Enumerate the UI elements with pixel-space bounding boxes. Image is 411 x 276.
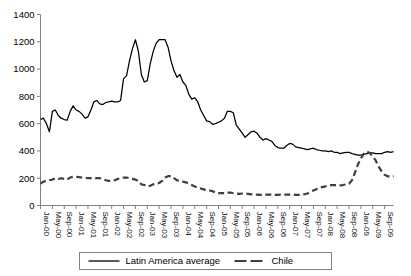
series-line-chile — [41, 152, 394, 195]
y-axis-tick-label: 200 — [19, 173, 35, 184]
x-axis-tick-label: Sep-00 — [65, 212, 74, 238]
x-axis-tick-label: Jan-08 — [326, 212, 335, 237]
x-axis-tick-label: May-09 — [374, 212, 383, 239]
chart-figure: 0200400600800100012001400Jan-00May-00Sep… — [0, 0, 411, 276]
x-axis-tick-label: May-07 — [303, 212, 312, 239]
y-axis-tick-label: 0 — [29, 200, 34, 211]
x-axis-tick-label: Jan-04 — [184, 212, 193, 237]
y-axis-tick-label: 800 — [19, 91, 35, 102]
legend-label-chile: Chile — [272, 255, 294, 266]
y-axis-tick-label: 600 — [19, 118, 35, 129]
x-axis-tick-label: May-05 — [232, 212, 241, 239]
x-axis-tick-label: Sep-02 — [137, 212, 146, 238]
x-axis-tick-label: Jan-02 — [113, 212, 122, 237]
x-axis-tick-label: May-08 — [338, 212, 347, 239]
x-axis-tick-label: Jan-01 — [77, 212, 86, 237]
x-axis-tick-label: May-00 — [54, 212, 63, 239]
x-axis-tick-label: Sep-01 — [101, 212, 110, 238]
y-axis-tick-label: 1200 — [13, 36, 34, 47]
x-axis-tick-label: Jan-09 — [362, 212, 371, 237]
x-axis-tick-label: Jan-00 — [42, 212, 51, 237]
x-axis-tick-label: Jan-06 — [255, 212, 264, 237]
x-axis-tick-label: Sep-07 — [315, 212, 324, 238]
x-axis-tick-label: May-04 — [196, 212, 205, 239]
x-axis-tick-label: Sep-05 — [243, 212, 252, 238]
y-axis-tick-label: 1400 — [13, 9, 34, 20]
x-axis-tick-label: Sep-08 — [350, 212, 359, 238]
y-axis-tick-label: 400 — [19, 145, 35, 156]
x-axis-tick-label: May-06 — [267, 212, 276, 239]
x-axis-tick-label: Jan-03 — [148, 212, 157, 237]
chart-canvas: 0200400600800100012001400Jan-00May-00Sep… — [0, 0, 411, 276]
x-axis-tick-label: May-02 — [125, 212, 134, 239]
y-axis-tick-label: 1000 — [13, 63, 34, 74]
x-axis-tick-label: Sep-09 — [386, 212, 395, 238]
legend-label-latin-america-average: Latin America average — [126, 255, 221, 266]
x-axis-tick-label: May-03 — [160, 212, 169, 239]
series-line-latin-america-average — [41, 40, 394, 155]
x-axis-tick-label: Sep-06 — [279, 212, 288, 238]
x-axis-tick-label: Sep-03 — [172, 212, 181, 238]
x-axis-tick-label: Jan-05 — [220, 212, 229, 237]
x-axis-tick-label: Jan-07 — [291, 212, 300, 237]
x-axis-tick-label: Sep-04 — [208, 212, 217, 238]
x-axis-tick-label: May-01 — [89, 212, 98, 239]
